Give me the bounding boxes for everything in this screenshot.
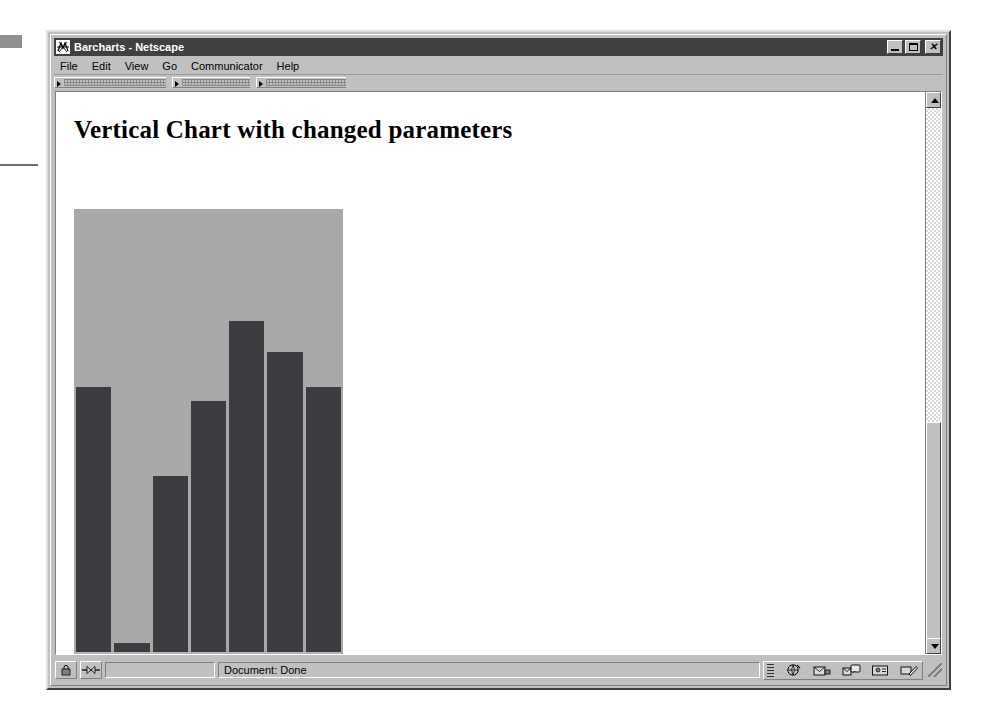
bar-column: [191, 211, 226, 652]
chart-x-axis: 1234567: [76, 652, 341, 654]
bar-column: [229, 211, 264, 652]
axis-tick-label: 4: [191, 652, 226, 654]
mailbox-icon[interactable]: [812, 663, 832, 678]
netscape-logo-icon: [56, 40, 70, 54]
menu-item-communicator[interactable]: Communicator: [191, 60, 263, 72]
axis-tick-label: 1: [76, 652, 111, 654]
window-title: Barcharts - Netscape: [74, 41, 184, 53]
padlock-icon: [59, 664, 73, 676]
composer-icon[interactable]: [899, 663, 919, 678]
bar-column: [76, 211, 111, 652]
window-controls: ✕: [887, 40, 941, 54]
bar-value: [114, 643, 149, 652]
vertical-scrollbar[interactable]: [925, 92, 941, 654]
rendered-page: Vertical Chart with changed parameters 1…: [56, 92, 925, 654]
bar-value: [76, 387, 111, 652]
scroll-down-button[interactable]: [926, 638, 941, 654]
close-icon: ✕: [926, 41, 940, 53]
bar-column: [114, 211, 149, 652]
menu-item-edit[interactable]: Edit: [92, 60, 111, 72]
connection-status-button[interactable]: [80, 661, 102, 679]
window-inner-frame: Barcharts - Netscape ✕ File Edit View Go…: [50, 34, 947, 686]
scroll-down-icon: [931, 644, 939, 649]
scroll-up-icon: [931, 98, 939, 103]
scan-artifact-block: [0, 35, 22, 48]
menu-item-go[interactable]: Go: [162, 60, 177, 72]
menu-item-help[interactable]: Help: [277, 60, 300, 72]
scan-artifact-line: [0, 164, 38, 166]
personal-toolbar-grippy[interactable]: [256, 77, 346, 88]
menu-bar: File Edit View Go Communicator Help: [54, 57, 943, 75]
title-bar-filler: [184, 38, 887, 56]
page-title: Vertical Chart with changed parameters: [74, 116, 925, 144]
status-message: Document: Done: [218, 662, 760, 678]
toolbar-strip: [54, 75, 943, 89]
bar-value: [229, 321, 264, 652]
bar-column: [153, 211, 188, 652]
newsgroups-icon[interactable]: [841, 663, 861, 678]
menu-item-view[interactable]: View: [125, 60, 149, 72]
bar-value: [153, 476, 188, 652]
bar-value: [306, 387, 341, 652]
component-bar-grip[interactable]: [767, 664, 774, 677]
component-bar: [763, 661, 923, 680]
axis-tick-label: 2: [114, 652, 149, 654]
scroll-up-button[interactable]: [926, 92, 941, 108]
axis-tick-label: 5: [229, 652, 264, 654]
title-bar[interactable]: Barcharts - Netscape ✕: [54, 38, 943, 56]
bar-value: [267, 352, 302, 652]
content-viewport: Vertical Chart with changed parameters 1…: [55, 91, 942, 655]
scrollbar-thumb[interactable]: [926, 422, 941, 640]
grippy-texture: [64, 79, 166, 86]
maximize-button[interactable]: [905, 40, 921, 54]
bar-value: [191, 401, 226, 652]
location-toolbar-grippy[interactable]: [172, 77, 250, 88]
axis-tick-label: 6: [267, 652, 302, 654]
address-book-icon[interactable]: [870, 663, 890, 678]
grippy-texture: [182, 79, 250, 86]
browser-window: Barcharts - Netscape ✕ File Edit View Go…: [46, 30, 951, 690]
resize-grip-icon[interactable]: [928, 663, 942, 677]
progress-bar: [105, 662, 215, 678]
navigation-toolbar-grippy[interactable]: [54, 77, 166, 88]
minimize-button[interactable]: [887, 40, 903, 54]
chart-plot-area: [76, 211, 341, 652]
close-button[interactable]: ✕: [925, 40, 941, 54]
axis-tick-label: 7: [306, 652, 341, 654]
bar-chart: 1234567: [74, 209, 343, 654]
bar-column: [306, 211, 341, 652]
connection-icon: [82, 665, 100, 675]
security-padlock-button[interactable]: [55, 661, 77, 679]
bar-column: [267, 211, 302, 652]
axis-tick-label: 3: [153, 652, 188, 654]
menu-item-file[interactable]: File: [60, 60, 78, 72]
grippy-texture: [266, 79, 346, 86]
status-bar: Document: Done: [55, 659, 942, 681]
navigator-icon[interactable]: [783, 663, 803, 678]
